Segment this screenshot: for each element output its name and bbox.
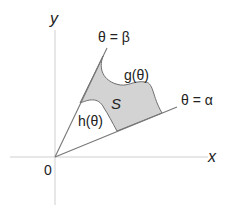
g-curve-label: g(θ)	[124, 67, 149, 83]
polar-region-diagram: y x 0 θ = β θ = α g(θ) h(θ) S	[0, 0, 234, 214]
x-axis-label: x	[207, 148, 217, 165]
h-curve-label: h(θ)	[78, 113, 103, 129]
ray-beta-label: θ = β	[98, 29, 130, 45]
y-axis-label: y	[49, 10, 59, 27]
region-s-label: S	[111, 95, 121, 112]
ray-alpha-label: θ = α	[181, 92, 213, 108]
origin-label: 0	[44, 162, 52, 178]
